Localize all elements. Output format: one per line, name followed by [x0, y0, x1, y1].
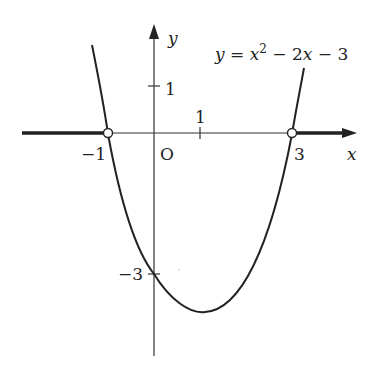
y-tick-label-neg3: −3 [118, 264, 143, 284]
x-tick-label-1: 1 [195, 107, 206, 127]
parabola-figure: y x O 1 1 −1 3 −3 y = x2 − 2x − 3 [0, 0, 385, 370]
x-axis-arrow-icon [342, 128, 357, 138]
speck [178, 269, 180, 271]
origin-label: O [160, 144, 174, 164]
x-tick-label-3: 3 [294, 144, 305, 164]
x-tick-label-neg1: −1 [81, 144, 106, 164]
y-axis-label: y [167, 28, 178, 48]
x-axis-label: x [347, 144, 357, 164]
root-marker-neg1 [104, 129, 113, 138]
y-axis-arrow-icon [149, 24, 159, 39]
equation-label: y = x2 − 2x − 3 [214, 42, 348, 64]
y-tick-label-1: 1 [165, 79, 176, 99]
root-marker-3 [288, 129, 297, 138]
